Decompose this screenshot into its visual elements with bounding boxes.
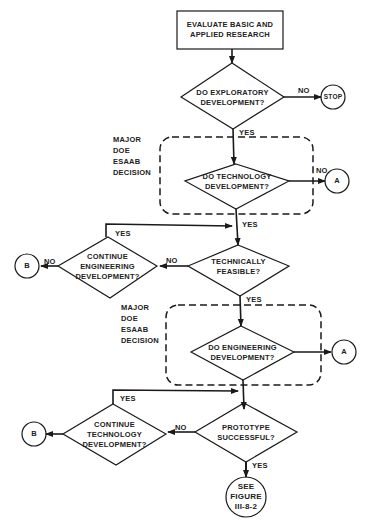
connector-a-2-label: A [332,347,356,357]
feasible-label: TECHNICALLY FEASIBLE? [188,257,289,277]
connector-b-2-label: B [22,429,46,439]
stop-label: STOP [321,92,345,102]
cont-eng-yes-label: YES [115,229,131,239]
feasible-no-label: NO [166,256,178,266]
cont-eng-no-label: NO [44,257,56,267]
exploratory-yes-label: YES [239,128,255,138]
connector-a-1-label: A [325,176,349,186]
technology-yes-label: YES [242,220,258,230]
end-label: SEE FIGURE III-8-2 [226,482,266,512]
prototype-yes-label: YES [252,461,268,471]
esaab-group-2-label: MAJOR DOE ESAAB DECISION [121,302,159,346]
continue-engineering-label: CONTINUE ENGINEERING DEVELOPMENT? [58,252,157,282]
prototype-label: PROTOTYPE SUCCESSFUL? [195,423,297,443]
continue-technology-label: CONTINUE TECHNOLOGY DEVELOPMENT? [63,420,166,450]
prototype-no-label: NO [175,423,187,433]
cont-tech-yes-label: YES [120,394,136,404]
technology-no-label: NO [316,166,328,176]
flowchart-canvas: EVALUATE BASIC AND APPLIED RESEARCH DO E… [0,0,381,525]
esaab-group-1-label: MAJOR DOE ESAAB DECISION [113,134,151,178]
engineering-label: DO ENGINEERING DEVELOPMENT? [191,343,294,363]
exploratory-label: DO EXPLORATORY DEVELOPMENT? [181,88,284,108]
connector-b-1-label: B [15,261,39,271]
exploratory-no-label: NO [298,86,310,96]
start-label: EVALUATE BASIC AND APPLIED RESEARCH [177,20,283,40]
technology-label: DO TECHNOLOGY DEVELOPMENT? [185,172,289,192]
feasible-yes-label: YES [246,295,262,305]
